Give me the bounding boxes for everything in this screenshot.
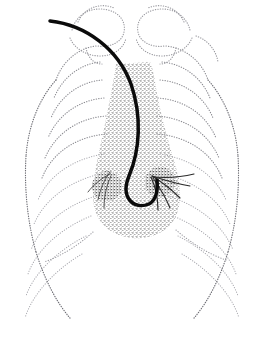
chest-diagram-figure — [0, 0, 262, 348]
chest-radiograph-illustration — [0, 0, 262, 348]
